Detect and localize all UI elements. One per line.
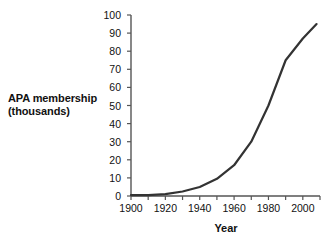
y-axis-tick-label: 70 (95, 64, 121, 74)
x-axis-tick-label: 1940 (183, 203, 217, 213)
chart-figure: APA membership (thousands) 0102030405060… (0, 0, 332, 241)
x-axis-tick-label: 1920 (148, 203, 182, 213)
x-axis-tick-label: 1900 (114, 203, 148, 213)
y-axis-tick-label: 0 (95, 191, 121, 201)
y-axis-tick-label: 50 (95, 101, 121, 111)
x-axis-title: Year (131, 222, 321, 234)
x-axis-tick-label: 1980 (251, 203, 285, 213)
y-axis-tick-label: 100 (95, 10, 121, 20)
y-axis-tick-label: 40 (95, 119, 121, 129)
y-axis-tick-label: 20 (95, 155, 121, 165)
data-series-line (131, 24, 317, 195)
y-axis-tick-label: 90 (95, 28, 121, 38)
x-axis-tick-label: 2000 (286, 203, 320, 213)
y-axis-tick-label: 10 (95, 173, 121, 183)
x-axis-tick-label: 1960 (217, 203, 251, 213)
y-axis-tick-label: 80 (95, 46, 121, 56)
y-axis-tick-label: 60 (95, 82, 121, 92)
axes (131, 15, 320, 196)
y-axis-tick-label: 30 (95, 137, 121, 147)
